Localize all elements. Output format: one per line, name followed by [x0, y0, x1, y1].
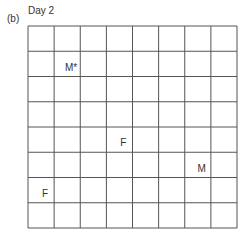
grid-marker: M* — [65, 63, 77, 73]
grid-marker: F — [120, 138, 126, 148]
grid-marker: F — [42, 189, 48, 199]
grid-marker: M — [198, 164, 206, 174]
figure-title: Day 2 — [28, 5, 54, 16]
habitat-grid: M*FMF — [28, 26, 237, 228]
grid-lines — [28, 26, 237, 228]
panel-label: (b) — [7, 13, 19, 24]
